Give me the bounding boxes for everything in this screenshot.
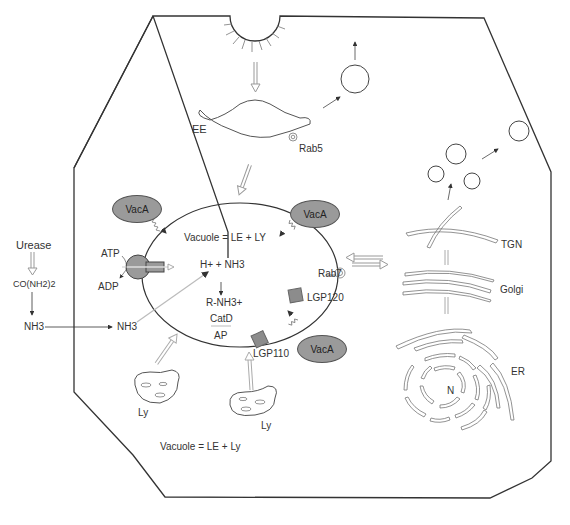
- label-rab7: Rab7: [318, 269, 342, 279]
- label-urea: CO(NH2)2: [13, 280, 56, 289]
- label-golgi: Golgi: [500, 285, 523, 295]
- golgi-3: [403, 290, 491, 302]
- nucleus-envelope: [404, 354, 480, 423]
- label-h-nh3: H+ + NH3: [200, 260, 244, 270]
- lgp110-protein: [251, 331, 268, 348]
- label-urease: Urease: [16, 240, 51, 251]
- label-ee: EE: [192, 124, 207, 135]
- label-atp: ATP: [101, 249, 120, 259]
- arrow-ee-to-vacuole: [235, 163, 254, 196]
- label-ly-left: Ly: [138, 408, 148, 418]
- early-endosome: [199, 100, 311, 137]
- label-nh3-inside: NH3: [117, 322, 137, 332]
- label-adp: ADP: [98, 282, 119, 292]
- label-vacuole-inner: Vacuole = LE + LY: [184, 233, 266, 243]
- label-nh3-outside: NH3: [24, 322, 44, 332]
- lgp120-protein: [288, 288, 303, 303]
- vaca-toxin-1: VacA: [112, 195, 162, 223]
- label-lgp110: LGP110: [253, 349, 289, 359]
- label-er: ER: [511, 367, 525, 377]
- label-rnh3: R-NH3+: [206, 298, 242, 308]
- cell-diagram: [0, 0, 570, 525]
- vaca-toxin-3: VacA: [297, 335, 347, 363]
- label-tgn: TGN: [501, 240, 522, 250]
- tgn: [406, 229, 498, 243]
- golgi-2: [403, 280, 491, 293]
- label-vacuole-bottom: Vacuole = LE + Ly: [160, 442, 241, 452]
- label-rab5: Rab5: [299, 144, 323, 154]
- vaca-toxin-2: VacA: [290, 200, 340, 228]
- lysosome-left: [135, 370, 180, 403]
- label-nucleus: N: [447, 386, 454, 396]
- label-lgp120: LGP120: [307, 293, 344, 303]
- label-ap: AP: [214, 331, 227, 341]
- arrow-pit-to-ee: [251, 62, 260, 92]
- label-ly-right: Ly: [261, 421, 271, 431]
- label-catd: CatD: [210, 314, 233, 324]
- lysosome-right: [230, 386, 277, 416]
